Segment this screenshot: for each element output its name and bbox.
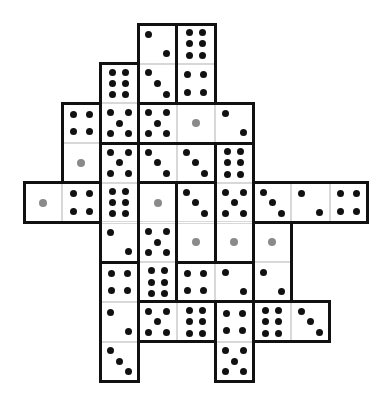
die-face-5[interactable]: [139, 223, 177, 263]
die-face-5[interactable]: [215, 183, 253, 223]
die-face-1[interactable]: [24, 183, 62, 223]
piece-border: [290, 181, 331, 184]
die-face-1[interactable]: [253, 223, 291, 263]
pip-icon: [224, 171, 231, 178]
pip-icon: [240, 210, 247, 217]
die-face-6[interactable]: [253, 302, 291, 342]
die-face-6[interactable]: [100, 183, 138, 223]
piece-border: [99, 261, 102, 304]
pip-icon: [122, 188, 129, 195]
pip-icon: [186, 40, 193, 47]
die-face-6[interactable]: [177, 24, 215, 64]
pip-icon: [200, 270, 207, 277]
die-face-2[interactable]: [215, 103, 253, 143]
pip-icon: [278, 210, 285, 217]
die-face-2[interactable]: [291, 183, 329, 223]
pip-icon: [122, 210, 129, 217]
pip-icon: [192, 119, 200, 127]
pip-icon: [148, 267, 155, 274]
pip-icon: [70, 111, 77, 118]
pip-icon: [148, 290, 155, 297]
pip-icon: [186, 307, 193, 314]
pip-icon: [125, 328, 132, 335]
piece-border: [175, 23, 178, 66]
pip-icon: [275, 330, 282, 337]
die-face-1[interactable]: [139, 183, 177, 223]
die-face-2[interactable]: [253, 262, 291, 302]
die-face-4[interactable]: [100, 262, 138, 302]
die-face-5[interactable]: [215, 342, 253, 382]
die-face-3[interactable]: [100, 342, 138, 382]
die-face-4[interactable]: [215, 302, 253, 342]
piece-border: [252, 300, 255, 343]
pip-icon: [163, 91, 170, 98]
die-face-6[interactable]: [215, 143, 253, 183]
piece-border: [214, 181, 217, 224]
piece-border: [137, 340, 140, 383]
piece-border: [61, 102, 64, 145]
piece-border: [214, 102, 255, 105]
pip-icon: [108, 287, 115, 294]
pip-icon: [275, 318, 282, 325]
die-face-1[interactable]: [177, 103, 215, 143]
pip-icon: [337, 190, 344, 197]
piece-border: [175, 142, 216, 145]
die-face-3[interactable]: [139, 143, 177, 183]
pip-icon: [163, 170, 170, 177]
die-face-2[interactable]: [100, 302, 138, 342]
pip-icon: [145, 69, 152, 76]
pip-icon: [316, 329, 323, 336]
die-face-4[interactable]: [62, 183, 100, 223]
pip-icon: [353, 190, 360, 197]
pip-icon: [122, 80, 129, 87]
pip-icon: [186, 29, 193, 36]
die-face-2[interactable]: [100, 223, 138, 263]
pip-icon: [161, 267, 168, 274]
die-face-1[interactable]: [215, 223, 253, 263]
pip-icon: [161, 290, 168, 297]
pip-icon: [125, 170, 132, 177]
die-face-4[interactable]: [330, 183, 368, 223]
piece-border: [252, 340, 293, 343]
pip-icon: [199, 52, 206, 59]
die-face-6[interactable]: [100, 64, 138, 104]
piece-border: [175, 62, 178, 105]
piece-border: [175, 23, 216, 26]
die-face-6[interactable]: [177, 302, 215, 342]
pip-icon: [154, 159, 161, 166]
die-face-5[interactable]: [100, 143, 138, 183]
pip-icon: [201, 210, 208, 217]
die-face-3[interactable]: [139, 64, 177, 104]
piece-border: [99, 221, 102, 264]
die-face-1[interactable]: [177, 223, 215, 263]
pip-icon: [184, 287, 191, 294]
die-face-2[interactable]: [139, 24, 177, 64]
die-face-3[interactable]: [291, 302, 329, 342]
pip-icon: [237, 171, 244, 178]
die-face-5[interactable]: [139, 302, 177, 342]
die-face-5[interactable]: [100, 103, 138, 143]
die-face-4[interactable]: [62, 103, 100, 143]
pip-icon: [124, 270, 131, 277]
pip-icon: [109, 188, 116, 195]
die-face-1[interactable]: [62, 143, 100, 183]
die-face-3[interactable]: [253, 183, 291, 223]
pip-icon: [184, 89, 191, 96]
piece-border: [61, 102, 102, 105]
die-face-4[interactable]: [177, 262, 215, 302]
die-face-3[interactable]: [177, 183, 215, 223]
pip-icon: [122, 91, 129, 98]
pip-icon: [199, 318, 206, 325]
piece-border: [175, 261, 216, 264]
pip-icon: [86, 208, 93, 215]
die-face-5[interactable]: [139, 103, 177, 143]
die-face-2[interactable]: [215, 262, 253, 302]
piece-border: [99, 142, 102, 185]
piece-border: [252, 300, 293, 303]
pip-icon: [109, 69, 116, 76]
die-face-4[interactable]: [177, 64, 215, 104]
piece-border: [366, 181, 369, 224]
piece-border: [137, 300, 178, 303]
die-face-3[interactable]: [177, 143, 215, 183]
die-face-6[interactable]: [139, 262, 177, 302]
